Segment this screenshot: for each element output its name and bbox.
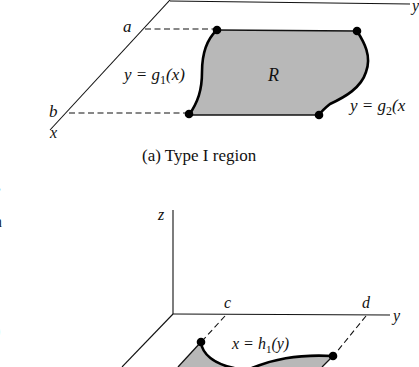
g1-label-rhs: (x) (166, 65, 185, 84)
caption-type-1: (a) Type I region (142, 146, 257, 165)
h1-label-lhs: x = h (231, 335, 266, 352)
h1-label-rhs: (y) (271, 335, 289, 353)
type-2-region-diagram: z y c d x = h1(y) (122, 206, 401, 367)
g2-label-rhs: (x (392, 96, 406, 115)
dashed-line-d (335, 316, 366, 354)
region-r-label: R (267, 65, 279, 85)
bound-c-label: c (224, 294, 231, 311)
bound-b-label: b (49, 102, 58, 121)
corner-dot-c (197, 338, 206, 347)
g2-label-lhs: y = g (348, 96, 386, 115)
corner-dot-bottom-left (185, 110, 194, 119)
g1-curve-label: y = g1(x) (122, 65, 185, 87)
x-axis-b (122, 314, 173, 367)
bound-d-label: d (362, 294, 371, 311)
double-integral-regions-figure: , n ) y x a b R y = g1(x) (0, 0, 419, 367)
g1-label-lhs: y = g (122, 65, 160, 84)
y-axis-a (170, 1, 410, 4)
corner-dot-d (329, 352, 338, 361)
h1-curve-label: x = h1(y) (231, 335, 289, 355)
fragment-comma: , (0, 176, 1, 193)
y-axis-label-b: y (391, 307, 401, 325)
corner-dot-top-right (353, 27, 362, 36)
g2-curve-label: y = g2(x (348, 96, 406, 118)
x-axis-label-a: x (49, 124, 57, 141)
corner-dot-top-left (213, 26, 222, 35)
y-axis-label-a: y (410, 0, 419, 15)
z-axis-label-b: z (157, 206, 165, 223)
left-edge-fragments: , n ) (0, 176, 2, 340)
dashed-line-c (203, 316, 225, 340)
type-1-region-diagram: y x a b R y = g1(x) y = g2(x (a) Type I … (49, 0, 419, 165)
fragment-n: n (0, 213, 2, 230)
corner-dot-bottom-right (315, 111, 324, 120)
y-axis-b (173, 314, 390, 315)
bound-a-label: a (123, 17, 132, 36)
